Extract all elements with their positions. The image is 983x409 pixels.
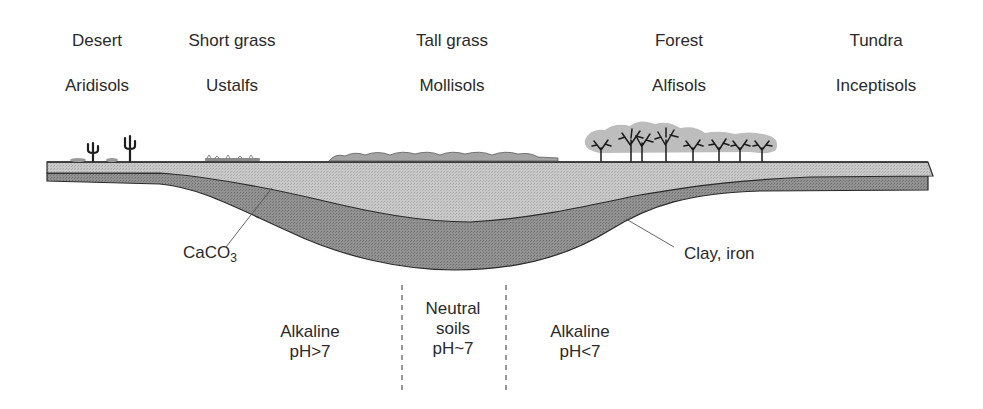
ph-zone-alkaline-low: Alkaline pH<7	[550, 322, 610, 362]
cactus-icon	[88, 136, 135, 161]
ph-zone-alkaline-high: Alkaline pH>7	[280, 322, 340, 362]
ph-zone-title: Neutral	[426, 299, 481, 319]
ph-zone-neutral: Neutral soils pH~7	[426, 299, 481, 359]
clay-iron-label: Clay, iron	[684, 244, 755, 264]
tall-grass-icon	[329, 152, 558, 161]
forest-trees-icon	[585, 121, 777, 161]
topsoil-layer	[47, 162, 933, 222]
ph-zone-value: pH>7	[280, 342, 340, 362]
ph-zone-value: pH<7	[550, 342, 610, 362]
clay-iron-leader-line	[626, 219, 674, 247]
ph-zone-title: Alkaline	[280, 322, 340, 342]
short-grass-icon	[205, 155, 260, 161]
caco3-label: CaCO3	[183, 243, 237, 263]
ph-zone-subtitle: soils	[426, 319, 481, 339]
ph-zone-value: pH~7	[426, 339, 481, 359]
soil-profile-diagram	[0, 0, 983, 409]
ph-zone-title: Alkaline	[550, 322, 610, 342]
